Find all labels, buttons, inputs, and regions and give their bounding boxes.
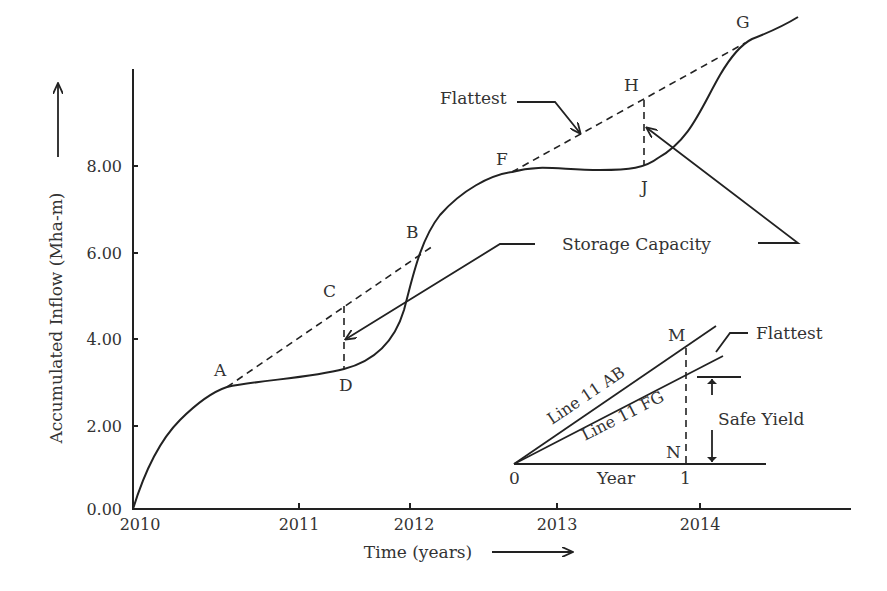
- flattest-label: Flattest: [440, 88, 507, 108]
- y-tick-6: 6.00: [86, 244, 122, 263]
- tangent-line-fg: [512, 43, 745, 172]
- point-j-label: J: [639, 177, 648, 197]
- inset-one-label: 1: [680, 468, 691, 488]
- inset-n-label: N: [666, 442, 681, 462]
- mass-curve-diagram: 0.00 2.00 4.00 6.00 8.00 2010 2011 2012 …: [0, 0, 887, 591]
- x-tick-2013: 2013: [537, 515, 578, 534]
- x-tick-2010: 2010: [120, 515, 161, 534]
- y-axis-title: Accumulated Inflow (Mha-m): [46, 193, 66, 445]
- y-tick-0: 0.00: [86, 500, 122, 519]
- x-tick-2014: 2014: [680, 515, 721, 534]
- y-tick-8: 8.00: [86, 157, 122, 176]
- inset-year-label: Year: [596, 468, 636, 488]
- axes: [133, 69, 851, 510]
- flattest-arrow-icon: [517, 102, 580, 133]
- point-g-label: G: [736, 12, 750, 32]
- inset-flattest-leader: [716, 333, 748, 352]
- y-tick-labels: 0.00 2.00 4.00 6.00 8.00: [86, 157, 122, 519]
- storage-capacity-arrow-cd-icon: [346, 244, 535, 339]
- point-c-label: C: [323, 281, 336, 301]
- point-f-label: F: [496, 149, 508, 169]
- inset-zero-label: 0: [509, 468, 520, 488]
- storage-capacity-arrow-hj-icon: [647, 128, 798, 243]
- x-tick-2011: 2011: [279, 515, 320, 534]
- inset-safe-yield-diagram: Flattest Safe Yield M N 0 1 Year Line 11…: [509, 323, 823, 488]
- y-tick-2: 2.00: [86, 417, 122, 436]
- x-tick-labels: 2010 2011 2012 2013 2014: [120, 515, 721, 534]
- inset-m-label: M: [668, 325, 685, 345]
- point-b-label: B: [406, 222, 419, 242]
- point-h-label: H: [624, 75, 639, 95]
- point-d-label: D: [339, 375, 353, 395]
- y-tick-4: 4.00: [86, 330, 122, 349]
- point-a-label: A: [213, 360, 227, 380]
- storage-capacity-label: Storage Capacity: [562, 234, 711, 254]
- x-tick-2012: 2012: [394, 515, 435, 534]
- inset-line-ab: [514, 326, 716, 464]
- inset-safe-yield-label: Safe Yield: [718, 409, 804, 429]
- x-axis-title: Time (years): [364, 542, 472, 562]
- inset-flattest-label: Flattest: [756, 323, 823, 343]
